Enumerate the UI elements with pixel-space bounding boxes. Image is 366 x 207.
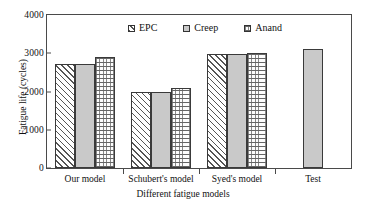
x-tick-label: Syed's model [212, 174, 263, 184]
chart-legend: EPCCreepAnand [128, 23, 282, 33]
legend-item-creep[interactable]: Creep [183, 23, 218, 33]
y-tick-label: 3000 [24, 48, 44, 58]
y-tick-mark [46, 129, 51, 130]
x-tick-mark [199, 169, 200, 174]
bar-creep-1 [151, 92, 171, 169]
y-tick-label: 4000 [24, 10, 44, 20]
y-tick-mark [46, 168, 51, 169]
bar-anand-0 [95, 57, 115, 168]
y-tick-label: 2000 [24, 87, 44, 97]
x-tick-mark [275, 169, 276, 174]
y-tick-mark [46, 53, 51, 54]
x-tick-mark [123, 169, 124, 174]
y-axis-ticks: 01000200030004000 [0, 0, 44, 207]
x-tick-label: Our model [65, 174, 106, 184]
bar-fill [76, 65, 94, 167]
bar-creep-0 [75, 64, 95, 168]
bar-chart: Fatigue life (cycles) 01000200030004000 … [0, 0, 366, 207]
y-tick-label: 0 [39, 163, 44, 173]
legend-swatch-icon [128, 25, 135, 32]
legend-item-epc[interactable]: EPC [128, 23, 157, 33]
legend-item-anand[interactable]: Anand [244, 23, 282, 33]
bar-creep-3 [303, 49, 323, 168]
bar-fill [96, 58, 114, 167]
x-axis-title: Different fatigue models [0, 189, 366, 199]
y-tick-mark [46, 91, 51, 92]
x-tick-label: Schubert's model [128, 174, 193, 184]
x-tick-label: Test [305, 174, 321, 184]
legend-label: Creep [194, 23, 218, 33]
legend-label: Anand [255, 23, 282, 33]
legend-label: EPC [139, 23, 157, 33]
bar-fill [56, 65, 74, 167]
legend-swatch-icon [244, 25, 251, 32]
bar-epc-1 [131, 92, 151, 169]
bar-anand-2 [247, 53, 267, 168]
bar-fill [152, 93, 170, 168]
bars-layer [47, 15, 351, 168]
bar-fill [228, 55, 246, 167]
bar-fill [172, 89, 190, 167]
bar-fill [304, 50, 322, 167]
bar-epc-2 [207, 54, 227, 168]
bar-fill [248, 54, 266, 167]
bar-creep-2 [227, 54, 247, 168]
y-tick-label: 1000 [24, 125, 44, 135]
bar-anand-1 [171, 88, 191, 168]
bar-epc-0 [55, 64, 75, 168]
legend-swatch-icon [183, 25, 190, 32]
bar-fill [208, 55, 226, 167]
bar-fill [132, 93, 150, 168]
